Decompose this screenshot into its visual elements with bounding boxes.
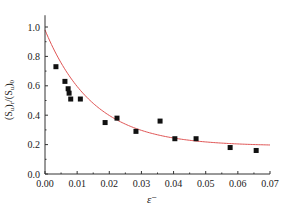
data-point	[254, 148, 259, 153]
data-point	[133, 129, 138, 134]
data-point	[78, 97, 83, 102]
y-axis-label: (Su)r/(Su)0	[3, 79, 16, 120]
data-point	[67, 91, 72, 96]
data-point	[158, 119, 163, 124]
x-axis-label: ε⁻	[147, 193, 157, 205]
y-tick-label: 0.4	[28, 110, 41, 121]
x-tick-label: 0.04	[165, 178, 183, 189]
data-point	[103, 120, 108, 125]
data-point	[53, 64, 58, 69]
data-point	[115, 116, 120, 121]
y-tick-label: 0.6	[28, 80, 41, 91]
data-point	[194, 136, 199, 141]
fit-curve	[45, 30, 270, 145]
data-point	[68, 97, 73, 102]
y-tick-label: 0.0	[28, 169, 41, 180]
x-tick-label: 0.06	[229, 178, 247, 189]
data-point	[62, 79, 67, 84]
data-point	[172, 136, 177, 141]
data-points	[53, 64, 258, 153]
axes	[45, 15, 270, 174]
y-tick-label: 0.2	[28, 139, 41, 150]
x-tick-label: 0.02	[101, 178, 119, 189]
y-tick-label: 0.8	[28, 51, 41, 62]
x-tick-label: 0.03	[133, 178, 151, 189]
data-point	[228, 145, 233, 150]
x-tick-label: 0.00	[36, 178, 54, 189]
chart: 0.000.010.020.030.040.050.060.07 0.00.20…	[0, 0, 292, 210]
x-tick-label: 0.07	[261, 178, 279, 189]
data-point	[66, 86, 71, 91]
x-tick-label: 0.05	[197, 178, 215, 189]
y-tick-label: 1.0	[28, 22, 41, 33]
x-tick-label: 0.01	[68, 178, 86, 189]
fit-curve-line	[45, 30, 270, 145]
